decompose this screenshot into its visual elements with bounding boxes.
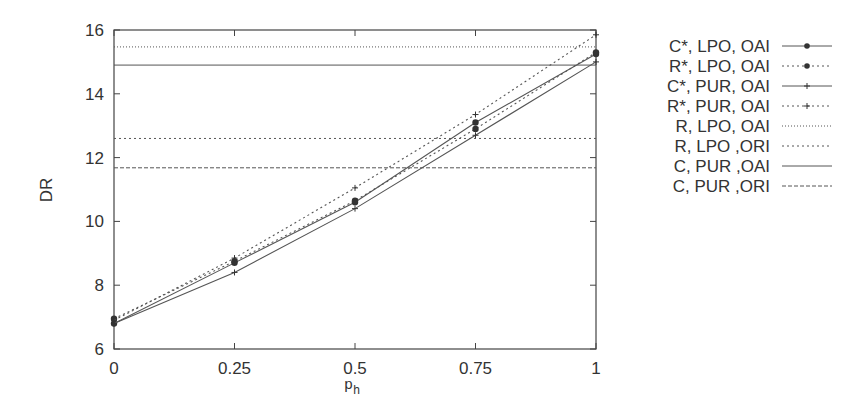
y-tick-label: 16 (85, 21, 104, 40)
legend-label: R, LPO, OAI (676, 117, 770, 136)
y-axis-title: DR (37, 178, 56, 203)
y-tick-label: 14 (85, 85, 104, 104)
x-tick-label: 0.25 (218, 359, 251, 378)
series-line (114, 35, 596, 321)
x-axis-title: ph (344, 377, 360, 398)
y-tick-label: 12 (85, 149, 104, 168)
y-axis: 6810121416 (85, 21, 596, 359)
data-point-dot (472, 119, 478, 125)
reference-lines (114, 47, 596, 168)
x-tick-label: 0.75 (459, 359, 492, 378)
legend-label: R*, PUR, OAI (667, 97, 770, 116)
data-point-dot (593, 49, 599, 55)
legend: C*, LPO, OAIR*, LPO, OAIC*, PUR, OAIR*, … (667, 37, 832, 196)
legend-label: C*, PUR, OAI (667, 77, 770, 96)
y-tick-label: 8 (95, 276, 104, 295)
data-point-dot (352, 197, 358, 203)
legend-label: R, LPO ,ORI (675, 137, 770, 156)
legend-label: C, PUR ,OAI (674, 157, 770, 176)
legend-label: C, PUR ,ORI (673, 177, 770, 196)
series-lines (111, 32, 599, 327)
x-tick-label: 0.5 (343, 359, 367, 378)
legend-label: C*, LPO, OAI (669, 37, 770, 56)
y-tick-label: 10 (85, 212, 104, 231)
legend-label: R*, LPO, OAI (669, 57, 770, 76)
legend-marker-dot (804, 63, 810, 69)
y-tick-label: 6 (95, 340, 104, 359)
chart: 6810121416 00.250.50.751 DR ph C*, LPO, … (0, 0, 866, 417)
x-tick-label: 1 (591, 359, 600, 378)
x-tick-label: 0 (109, 359, 118, 378)
data-point-dot (472, 126, 478, 132)
legend-marker-dot (804, 43, 810, 49)
